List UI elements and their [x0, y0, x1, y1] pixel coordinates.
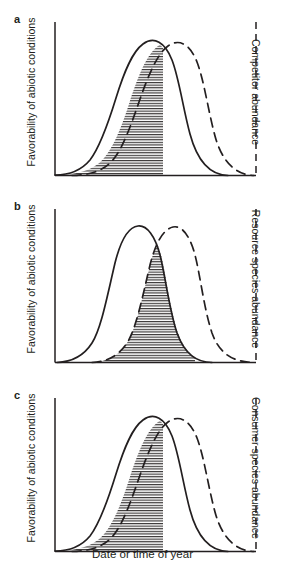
overlap-shading-b: [60, 226, 212, 363]
plot-area-a: [0, 4, 285, 184]
panel-b: b Favorability of abiotic conditions Res…: [0, 191, 285, 371]
plot-area-c: [0, 380, 285, 560]
figure-container: a Favorability of abiotic conditions Com…: [0, 0, 285, 576]
mismatch-shading-a: [55, 42, 182, 175]
panel-c: c Favorability of abiotic conditions Con…: [0, 380, 285, 560]
plot-area-b: [0, 191, 285, 371]
x-axis-label: Date or time of year: [0, 548, 285, 560]
mismatch-shading-c: [55, 418, 182, 551]
panel-a: a Favorability of abiotic conditions Com…: [0, 4, 285, 184]
